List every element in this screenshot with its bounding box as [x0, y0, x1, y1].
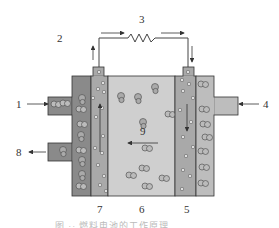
label-6: 6 — [139, 204, 145, 215]
label-4: 4 — [263, 99, 269, 110]
label-9: 9 — [140, 126, 146, 137]
figure-caption: 图 ·· 燃料电池的工作原理 — [55, 219, 240, 228]
left-chamber — [48, 76, 91, 196]
label-2: 2 — [57, 33, 63, 44]
label-8: 8 — [16, 147, 22, 158]
fuel-cell-diagram — [0, 0, 279, 228]
label-1: 1 — [16, 99, 22, 110]
label-7: 7 — [97, 204, 103, 215]
external-circuit — [93, 33, 192, 67]
resistor-icon — [128, 34, 155, 42]
label-5: 5 — [184, 204, 190, 215]
right-chamber — [196, 76, 238, 196]
label-3: 3 — [139, 14, 145, 25]
left-electrode — [91, 67, 108, 196]
right-electrode — [175, 67, 196, 196]
